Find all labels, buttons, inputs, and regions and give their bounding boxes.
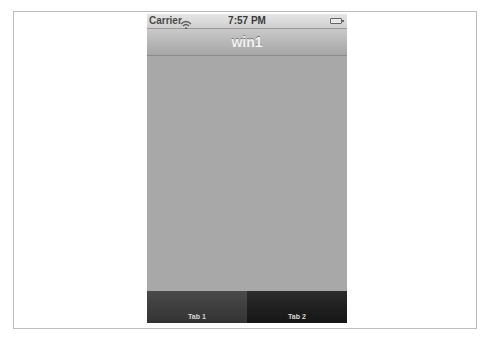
battery-icon xyxy=(330,18,342,24)
nav-title: win1 xyxy=(147,34,347,50)
navigation-bar: win1 xyxy=(147,29,347,56)
tab-2[interactable]: Tab 2 xyxy=(247,291,347,323)
tab-1[interactable]: Tab 1 xyxy=(147,291,247,323)
status-time: 7:57 PM xyxy=(147,15,347,27)
tab-bar: Tab 1 Tab 2 xyxy=(147,291,347,323)
status-bar: Carrier 7:57 PM xyxy=(147,14,347,29)
phone-screen: Carrier 7:57 PM win1 Tab 1 Tab 2 xyxy=(147,14,347,323)
window-content xyxy=(147,56,347,291)
tab-1-label: Tab 1 xyxy=(147,312,247,321)
tab-2-label: Tab 2 xyxy=(247,312,347,321)
